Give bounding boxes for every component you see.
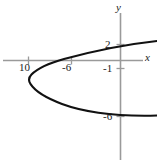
y-tick-label-pos2: 2 <box>105 39 111 50</box>
y-tick-label-neg6: -6 <box>103 111 112 122</box>
parabola-curve <box>29 41 157 116</box>
y-axis-label: y <box>116 2 121 13</box>
x-tick-label-neg6: -6 <box>62 62 71 73</box>
graph-figure: 10 -6 2 -1 -6 x y <box>0 0 157 163</box>
graph-canvas <box>0 0 157 163</box>
x-tick-label-neg10: 10 <box>19 62 30 73</box>
x-axis-label: x <box>145 52 150 63</box>
y-tick-label-neg1: -1 <box>103 63 112 74</box>
